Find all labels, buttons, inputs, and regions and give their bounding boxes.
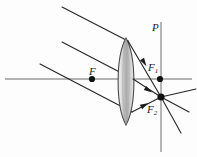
exit-ray-1 [161, 89, 196, 97]
exit-ray-group [161, 89, 196, 133]
point-marker-F2 [157, 93, 164, 100]
label-focal-point-F1: F1 [148, 62, 158, 73]
lens-ray-diagram: P F F1 F2 [0, 0, 197, 157]
label-plane-P: P [152, 22, 159, 33]
label-F2-subscript: 2 [154, 109, 158, 117]
label-focal-point-F: F [89, 66, 96, 77]
label-F1-base: F [148, 61, 155, 73]
point-marker-F1 [157, 76, 163, 82]
incident-ray-1 [62, 7, 128, 41]
label-focal-point-F2: F2 [147, 104, 157, 115]
label-F1-subscript: 1 [155, 67, 159, 75]
label-F2-base: F [147, 103, 154, 115]
diagram-canvas [0, 0, 197, 157]
